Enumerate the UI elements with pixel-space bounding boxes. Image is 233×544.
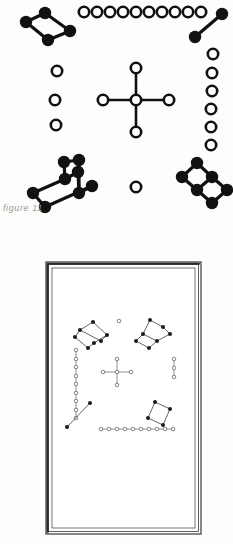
open-node-right-open-column-0 (208, 49, 218, 59)
plate-open-node-bottom-open-row-7 (155, 427, 159, 431)
open-node-top-row-open-chain-5 (144, 7, 154, 17)
open-node-top-row-open-chain-0 (79, 7, 89, 17)
filled-node-top-left-rhombus-2 (42, 34, 54, 46)
filled-node-top-left-rhombus-3 (64, 25, 76, 37)
open-node-center-lone-open-dot-0 (131, 182, 141, 192)
filled-node-top-right-segment-0 (216, 8, 228, 20)
filled-node-top-right-segment-1 (189, 31, 201, 43)
filled-node-bottom-right-double-rhombus-2 (191, 184, 203, 196)
open-node-center-cross-3 (98, 95, 108, 105)
plate-filled-node-tl-parallelogram-5 (99, 339, 103, 343)
node-group-left-open-column (50, 66, 62, 130)
framed-plate-diagram (0, 255, 233, 544)
open-node-top-row-open-chain-9 (196, 7, 206, 17)
open-node-top-row-open-chain-8 (183, 7, 193, 17)
open-node-center-cross-4 (164, 95, 174, 105)
plate-open-node-left-open-chain-1 (74, 357, 78, 361)
open-node-left-open-column-2 (51, 120, 61, 130)
open-node-right-open-column-4 (206, 122, 216, 132)
plate-group-left-open-chain (74, 348, 78, 420)
filled-node-bottom-right-double-rhombus-3 (206, 171, 218, 183)
plate-filled-node-tr-parallelogram-2 (155, 339, 159, 343)
plate-open-node-bottom-open-row-3 (123, 427, 127, 431)
plate-open-node-center-cross-2 (115, 383, 119, 387)
plate-open-node-left-open-chain-5 (74, 391, 78, 395)
plate-open-node-right-open-chain-1 (172, 366, 176, 370)
frame-inner-rule (52, 268, 195, 528)
plate-filled-node-tl-parallelogram-1 (91, 320, 95, 324)
plate-open-node-bottom-open-row-5 (139, 427, 143, 431)
plate-open-node-left-open-chain-4 (74, 382, 78, 386)
plate-open-node-bottom-open-row-9 (171, 427, 175, 431)
plate-filled-node-diagonal-segment-1 (65, 425, 69, 429)
plate-group-right-open-chain (172, 357, 176, 379)
open-node-center-cross-0 (131, 95, 141, 105)
plate-filled-node-tl-parallelogram-6 (73, 335, 77, 339)
filled-node-bottom-right-double-rhombus-0 (191, 157, 203, 169)
open-node-top-row-open-chain-3 (118, 7, 128, 17)
open-node-right-open-column-2 (207, 86, 217, 96)
node-group-center-lone-open-dot (131, 182, 141, 192)
plate-open-node-bottom-open-row-1 (107, 427, 111, 431)
filled-node-bottom-right-double-rhombus-1 (176, 171, 188, 183)
figure-11-diagram (0, 0, 233, 222)
filled-node-bottom-left-ladder-5 (58, 156, 70, 168)
plate-open-node-left-open-chain-3 (74, 374, 78, 378)
plate-filled-node-tl-parallelogram-3 (92, 341, 96, 345)
plate-open-node-left-open-chain-7 (74, 408, 78, 412)
filled-node-bottom-left-ladder-2 (27, 187, 39, 199)
open-node-center-cross-2 (131, 127, 141, 137)
plate-filled-node-tr-parallelogram-0 (148, 318, 152, 322)
plate-open-node-left-open-chain-2 (74, 365, 78, 369)
plate-filled-node-bottom-right-parallelogram-1 (168, 407, 172, 411)
plate-open-node-center-cross-3 (101, 370, 105, 374)
plate-filled-node-diagonal-segment-0 (88, 401, 92, 405)
plate-group-top-lone-open-dot (117, 319, 121, 323)
plate-open-node-bottom-open-row-6 (147, 427, 151, 431)
open-node-center-cross-1 (131, 63, 141, 73)
plate-open-node-bottom-open-row-0 (99, 427, 103, 431)
plate-open-node-bottom-open-row-2 (115, 427, 119, 431)
plate-filled-node-tr-parallelogram-5 (147, 346, 151, 350)
open-node-top-row-open-chain-6 (157, 7, 167, 17)
filled-node-bottom-left-ladder-1 (59, 173, 71, 185)
plate-open-node-left-open-chain-0 (74, 348, 78, 352)
open-node-right-open-column-1 (207, 68, 217, 78)
node-group-bottom-right-double-rhombus (176, 157, 233, 209)
plate-open-node-bottom-open-row-4 (131, 427, 135, 431)
node-group-right-open-column (206, 49, 218, 150)
open-node-left-open-column-0 (52, 66, 62, 76)
plate-filled-node-tr-parallelogram-4 (134, 339, 138, 343)
figure-plate-page: figure 11 (0, 0, 233, 544)
plate-frame (46, 262, 201, 534)
open-node-right-open-column-3 (206, 104, 216, 114)
filled-node-bottom-right-double-rhombus-5 (221, 184, 233, 196)
open-node-top-row-open-chain-1 (92, 7, 102, 17)
plate-filled-node-tr-parallelogram-1 (161, 325, 165, 329)
top-figure-panel (0, 0, 233, 222)
plate-open-node-right-open-chain-0 (172, 357, 176, 361)
plate-open-node-center-cross-1 (115, 357, 119, 361)
node-group-top-left-rhombus (20, 7, 76, 46)
node-group-top-row-open-chain (79, 7, 206, 17)
plate-filled-node-tr-parallelogram-6 (168, 332, 172, 336)
plate-filled-node-tl-parallelogram-0 (78, 328, 82, 332)
plate-open-node-top-lone-open-dot-0 (117, 319, 121, 323)
filled-node-bottom-left-ladder-7 (86, 180, 98, 192)
plate-filled-node-tl-parallelogram-2 (105, 333, 109, 337)
plate-open-node-right-open-chain-2 (172, 375, 176, 379)
filled-node-top-left-rhombus-0 (39, 7, 51, 19)
edge-bottom-left-ladder (45, 186, 92, 207)
filled-node-bottom-left-ladder-6 (72, 166, 84, 178)
node-group-center-cross (98, 63, 174, 137)
open-node-left-open-column-1 (50, 95, 60, 105)
plate-open-node-center-cross-0 (115, 370, 119, 374)
plate-filled-node-bottom-right-parallelogram-3 (146, 416, 150, 420)
plate-filled-node-tl-parallelogram-4 (86, 346, 90, 350)
bottom-framed-panel (0, 255, 233, 544)
open-node-top-row-open-chain-2 (105, 7, 115, 17)
plate-filled-node-bottom-right-parallelogram-2 (161, 423, 165, 427)
filled-node-bottom-left-ladder-4 (73, 187, 85, 199)
filled-node-bottom-right-double-rhombus-4 (206, 197, 218, 209)
open-node-top-row-open-chain-7 (170, 7, 180, 17)
